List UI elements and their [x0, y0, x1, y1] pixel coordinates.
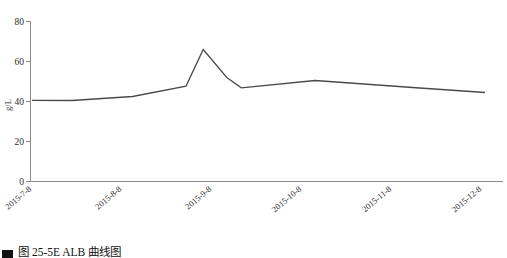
square-bullet-icon — [2, 250, 13, 258]
x-tick-label-3: 2015-10-8 — [270, 184, 304, 214]
y-tick-label-80: 80 — [15, 17, 25, 27]
y-axis-group: 80 60 40 20 0 g/L — [3, 17, 31, 187]
figure-caption-text: 图 25-5E ALB 曲线图 — [18, 247, 121, 258]
x-axis-group: 2015-7-8 2015-8-8 2015-9-8 2015-10-8 201… — [3, 182, 503, 215]
alb-line-chart: 80 60 40 20 0 g/L 2015-7-8 2015-8-8 2015… — [0, 0, 507, 258]
alb-data-line — [32, 50, 485, 101]
chart-svg: 80 60 40 20 0 g/L 2015-7-8 2015-8-8 2015… — [0, 0, 507, 244]
x-tick-label-5: 2015-12-8 — [450, 184, 484, 214]
y-tick-label-40: 40 — [15, 97, 25, 107]
y-tick-label-20: 20 — [15, 137, 25, 147]
figure-caption: 图 25-5E ALB 曲线图 — [0, 244, 507, 258]
x-tick-label-2: 2015-9-8 — [183, 184, 213, 212]
y-tick-label-60: 60 — [15, 57, 25, 67]
x-tick-label-4: 2015-11-8 — [360, 184, 393, 214]
x-tick-label-0: 2015-7-8 — [3, 184, 33, 212]
x-tick-label-1: 2015-8-8 — [93, 184, 123, 212]
y-axis-title: g/L — [3, 99, 13, 111]
